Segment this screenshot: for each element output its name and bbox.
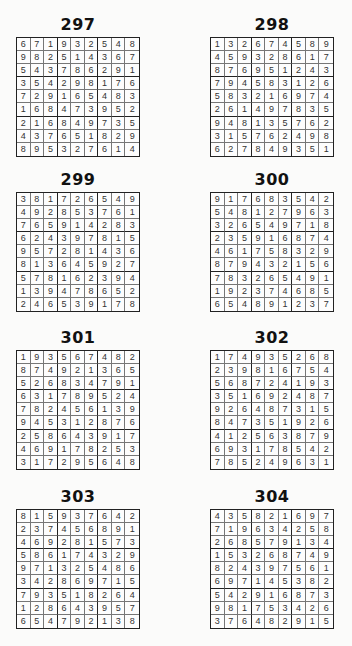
grid-cell: 7 — [252, 245, 266, 258]
grid-cell: 3 — [279, 602, 293, 615]
grid-cell: 2 — [71, 364, 85, 377]
grid-cell: 9 — [238, 523, 252, 536]
grid-cell: 5 — [279, 117, 293, 130]
grid-cell: 9 — [17, 562, 31, 575]
grid-cell: 2 — [265, 377, 279, 390]
grid-cell: 9 — [85, 298, 99, 311]
grid-cell: 3 — [71, 298, 85, 311]
grid-cell: 8 — [252, 143, 266, 156]
grid-cell: 6 — [112, 364, 126, 377]
grid-cell: 9 — [238, 364, 252, 377]
grid-cell: 2 — [112, 130, 126, 143]
grid-cell: 5 — [31, 245, 45, 258]
grid-cell: 2 — [319, 117, 333, 130]
grid-cell: 6 — [252, 390, 266, 403]
grid-cell: 9 — [17, 245, 31, 258]
grid-cell: 7 — [31, 562, 45, 575]
grid-cell: 7 — [44, 245, 58, 258]
grid-cell: 9 — [58, 510, 72, 523]
grid-cell: 3 — [252, 562, 266, 575]
grid-cell: 7 — [238, 575, 252, 588]
grid-cell: 7 — [319, 390, 333, 403]
grid-cell: 1 — [98, 298, 112, 311]
grid-cell: 9 — [31, 143, 45, 156]
grid-cell: 6 — [58, 430, 72, 443]
grid-cell: 7 — [112, 536, 126, 549]
grid-cell: 6 — [85, 193, 99, 206]
grid-cell: 6 — [225, 377, 239, 390]
grid-cell: 5 — [265, 64, 279, 77]
grid-cell: 3 — [58, 232, 72, 245]
grid-cell: 8 — [252, 510, 266, 523]
grid-cell: 7 — [292, 364, 306, 377]
grid-cell: 7 — [306, 232, 320, 245]
grid-cell: 1 — [252, 575, 266, 588]
grid-cell: 2 — [17, 117, 31, 130]
grid-cell: 4 — [306, 549, 320, 562]
grid-cell: 1 — [292, 536, 306, 549]
grid-cell: 5 — [17, 549, 31, 562]
grid-cell: 8 — [44, 430, 58, 443]
grid-cell: 6 — [44, 117, 58, 130]
grid-cell: 7 — [31, 38, 45, 51]
grid-cell: 4 — [17, 443, 31, 456]
grid-cell: 1 — [211, 351, 225, 364]
grid-cell: 5 — [252, 219, 266, 232]
grid-cell: 2 — [31, 232, 45, 245]
grid-cell: 7 — [265, 536, 279, 549]
grid-cell: 1 — [31, 258, 45, 271]
grid-cell: 4 — [279, 38, 293, 51]
grid-cell: 2 — [31, 602, 45, 615]
grid-cell: 8 — [85, 589, 99, 602]
grid-cell: 6 — [71, 90, 85, 103]
grid-cell: 3 — [306, 103, 320, 116]
grid-cell: 9 — [44, 285, 58, 298]
grid-cell: 6 — [125, 416, 139, 429]
grid-cell: 8 — [44, 602, 58, 615]
grid-cell: 5 — [85, 258, 99, 271]
grid-cell: 3 — [44, 64, 58, 77]
grid-cell: 1 — [279, 64, 293, 77]
grid-cell: 7 — [71, 103, 85, 116]
puzzle-number: 299 — [16, 171, 140, 189]
grid-cell: 3 — [279, 193, 293, 206]
grid-cell: 1 — [85, 245, 99, 258]
grid-cell: 5 — [125, 117, 139, 130]
grid-cell: 7 — [238, 416, 252, 429]
grid-cell: 4 — [17, 206, 31, 219]
grid-cell: 4 — [265, 456, 279, 469]
grid-cell: 1 — [125, 64, 139, 77]
grid-cell: 8 — [279, 549, 293, 562]
grid-cell: 2 — [265, 510, 279, 523]
grid-cell: 5 — [112, 285, 126, 298]
grid-cell: 7 — [58, 193, 72, 206]
grid-cell: 3 — [125, 219, 139, 232]
grid-cell: 6 — [306, 117, 320, 130]
grid-cell: 4 — [85, 219, 99, 232]
grid-cell: 9 — [112, 377, 126, 390]
grid-cell: 9 — [98, 103, 112, 116]
grid-cell: 7 — [225, 615, 239, 628]
grid-cell: 9 — [31, 206, 45, 219]
sudoku-puzzle-304: 304 435821697719634258268579134153268749… — [210, 488, 334, 629]
grid-cell: 1 — [211, 285, 225, 298]
grid-cell: 4 — [125, 143, 139, 156]
grid-cell: 3 — [306, 536, 320, 549]
grid-cell: 2 — [292, 298, 306, 311]
grid-cell: 9 — [279, 143, 293, 156]
grid-cell: 3 — [252, 285, 266, 298]
grid-cell: 3 — [17, 456, 31, 469]
grid-cell: 1 — [112, 430, 126, 443]
grid-cell: 3 — [319, 377, 333, 390]
grid-cell: 6 — [98, 285, 112, 298]
grid-cell: 3 — [252, 51, 266, 64]
grid-cell: 8 — [279, 51, 293, 64]
grid-cell: 2 — [98, 64, 112, 77]
grid-cell: 4 — [98, 90, 112, 103]
grid-cell: 6 — [211, 143, 225, 156]
grid-cell: 4 — [238, 298, 252, 311]
grid-cell: 4 — [125, 390, 139, 403]
grid-cell: 6 — [238, 64, 252, 77]
grid-cell: 3 — [31, 130, 45, 143]
grid-cell: 9 — [58, 219, 72, 232]
